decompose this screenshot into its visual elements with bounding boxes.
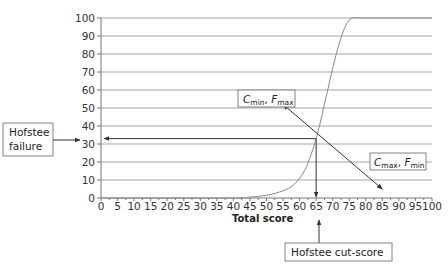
y-tick-label: 80 bbox=[82, 48, 95, 60]
y-tick-label: 10 bbox=[82, 174, 95, 186]
x-axis-ticks: 0510152025303540455055606570758085909510… bbox=[98, 198, 442, 212]
x-tick-label: 85 bbox=[376, 200, 389, 212]
x-tick-label: 80 bbox=[359, 200, 372, 212]
x-tick-label: 15 bbox=[144, 200, 157, 212]
x-tick-label: 25 bbox=[177, 200, 190, 212]
y-tick-label: 20 bbox=[82, 156, 95, 168]
y-tick-label: 0 bbox=[88, 192, 95, 204]
hofstee-cutscore-label: Hofstee cut-score bbox=[291, 246, 383, 258]
x-tick-label: 70 bbox=[326, 200, 339, 212]
x-tick-label: 60 bbox=[293, 200, 306, 212]
x-tick-label: 95 bbox=[409, 200, 422, 212]
x-tick-label: 10 bbox=[127, 200, 140, 212]
x-tick-label: 90 bbox=[392, 200, 405, 212]
hofstee-line bbox=[283, 104, 382, 189]
y-tick-label: 70 bbox=[82, 66, 95, 78]
y-tick-label: 30 bbox=[82, 138, 95, 150]
x-axis-title: Total score bbox=[232, 213, 293, 224]
x-tick-label: 30 bbox=[194, 200, 207, 212]
x-tick-label: 20 bbox=[161, 200, 174, 212]
hofstee-failure-label-2: failure bbox=[9, 140, 42, 152]
hofstee-chart: 0102030405060708090100 05101520253035404… bbox=[0, 0, 448, 271]
y-axis-ticks: 0102030405060708090100 bbox=[75, 12, 101, 204]
x-tick-label: 0 bbox=[98, 200, 105, 212]
hofstee-failure-label-1: Hofstee bbox=[9, 126, 50, 138]
y-tick-label: 50 bbox=[82, 102, 95, 114]
x-tick-label: 65 bbox=[309, 200, 322, 212]
x-tick-label: 55 bbox=[276, 200, 289, 212]
y-tick-label: 100 bbox=[75, 12, 95, 24]
x-tick-label: 50 bbox=[260, 200, 273, 212]
y-tick-label: 40 bbox=[82, 120, 95, 132]
x-tick-label: 75 bbox=[343, 200, 356, 212]
x-tick-label: 35 bbox=[210, 200, 223, 212]
y-tick-label: 60 bbox=[82, 84, 95, 96]
x-tick-label: 100 bbox=[422, 200, 442, 212]
x-tick-label: 45 bbox=[243, 200, 256, 212]
x-tick-label: 40 bbox=[227, 200, 240, 212]
x-tick-label: 5 bbox=[114, 200, 121, 212]
y-tick-label: 90 bbox=[82, 30, 95, 42]
